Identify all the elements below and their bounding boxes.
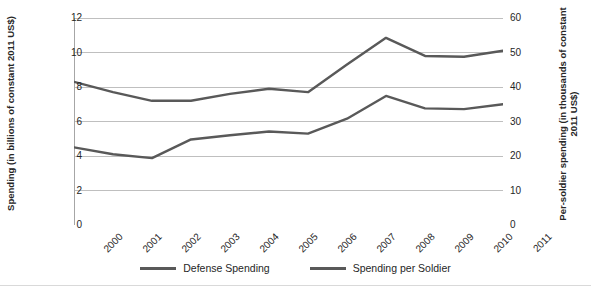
right-tick-label: 60	[510, 13, 550, 23]
chart-legend: Defense SpendingSpending per Soldier	[0, 262, 591, 274]
x-tick-label: 2010	[483, 231, 515, 263]
left-tick-label: 0	[42, 220, 82, 230]
left-tick-label: 2	[42, 186, 82, 196]
legend-label: Defense Spending	[183, 262, 269, 274]
right-tick-label: 50	[510, 48, 550, 58]
right-tick-label: 40	[510, 82, 550, 92]
chart-title	[0, 0, 591, 3]
x-tick-label: 2000	[93, 231, 125, 263]
right-tick-label: 20	[510, 151, 550, 161]
right-tick-label: 0	[510, 220, 550, 230]
right-tick-label: 30	[510, 117, 550, 127]
left-tick-label: 4	[42, 151, 82, 161]
x-tick-label: 2004	[249, 231, 281, 263]
legend-line-icon	[140, 267, 176, 270]
left-tick-label: 6	[42, 117, 82, 127]
legend-item[interactable]: Spending per Soldier	[310, 262, 451, 274]
legend-line-icon	[310, 267, 346, 270]
left-tick-label: 12	[42, 13, 82, 23]
x-tick-label: 2008	[405, 231, 437, 263]
right-axis-title: Per-soldier spending (in thousands of co…	[557, 7, 579, 222]
x-tick-label: 2007	[366, 231, 398, 263]
series-lines	[74, 38, 503, 158]
x-tick-label: 2002	[171, 231, 203, 263]
plot-area	[74, 18, 503, 225]
legend-item[interactable]: Defense Spending	[140, 262, 269, 274]
x-tick-label: 2006	[327, 231, 359, 263]
legend-label: Spending per Soldier	[353, 262, 451, 274]
x-tick-label: 2005	[288, 231, 320, 263]
gridlines	[74, 18, 503, 225]
x-tick-label: 2003	[210, 231, 242, 263]
plot-svg	[74, 18, 503, 225]
x-tick-label: 2011	[522, 231, 554, 263]
right-tick-label: 10	[510, 186, 550, 196]
left-axis-title: Spending (in billions of constant 2011 U…	[5, 4, 16, 224]
chart-figure: Spending (in billions of constant 2011 U…	[0, 0, 591, 286]
left-tick-label: 8	[42, 82, 82, 92]
x-tick-label: 2009	[444, 231, 476, 263]
left-tick-label: 10	[42, 48, 82, 58]
x-tick-label: 2001	[132, 231, 164, 263]
